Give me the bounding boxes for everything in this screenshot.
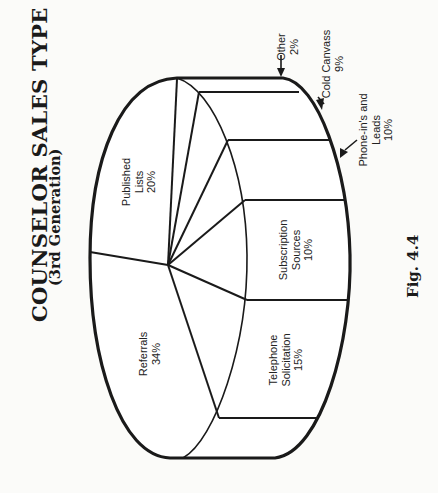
slice-label-phone-ins-and-leads: Phone-in's and Leads 10% bbox=[357, 88, 395, 172]
pie-chart-figure: COUNSELOR SALES TYPE (3rd Generation) Pu… bbox=[0, 0, 438, 493]
figure-caption: Fig. 4.4 bbox=[404, 235, 422, 298]
slice-label-referrals: Referrals 34% bbox=[137, 324, 162, 384]
arrow-other-head bbox=[277, 68, 285, 77]
pie-chart-graphic bbox=[0, 0, 438, 493]
slice-label-published-lists: Published Lists 20% bbox=[120, 152, 158, 212]
slice-label-other: Other 2% bbox=[275, 30, 300, 64]
slice-label-cold-canvass: Cold Canvass 9% bbox=[320, 26, 345, 102]
slice-label-telephone-solicitation: Telephone Solicitation 15% bbox=[267, 330, 305, 390]
arrow-phone-in bbox=[345, 140, 357, 150]
chart-subtitle: (3rd Generation) bbox=[46, 149, 63, 286]
slice-label-subscription-sources: Subscription Sources 10% bbox=[277, 210, 315, 290]
